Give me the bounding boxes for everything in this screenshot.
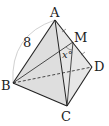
label-c: C [61, 109, 71, 124]
label-m: M [74, 30, 87, 45]
label-a: A [49, 5, 60, 20]
label-d: D [94, 59, 104, 74]
tetrahedron-diagram: A B C D M 8 x° [0, 0, 109, 126]
label-angle-x: x° [62, 49, 73, 60]
label-edge-length: 8 [23, 35, 31, 50]
label-b: B [1, 78, 11, 93]
